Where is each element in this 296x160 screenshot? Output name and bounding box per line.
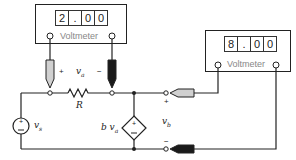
terminal-va-plus — [48, 91, 52, 95]
probe-vb-positive — [170, 89, 194, 97]
vb-label: vb — [162, 117, 171, 128]
voltmeter-b-label: Voltmeter — [227, 60, 265, 69]
va-subscript: a — [81, 71, 85, 78]
voltmeter-a: 2 . 0 0 Voltmeter — [35, 4, 127, 44]
lead-vb-minus — [194, 66, 276, 149]
svg-text:+: + — [19, 118, 23, 125]
vs-label: vs — [34, 121, 42, 132]
digit: 8 — [225, 37, 238, 51]
digit: 0 — [251, 37, 264, 51]
voltmeter-b: 8 . 0 0 Voltmeter — [205, 30, 291, 72]
vb-plus-sign: + — [164, 98, 169, 106]
digit: 0 — [82, 11, 95, 25]
digit: 0 — [95, 11, 107, 25]
bva-symbol: b v — [101, 122, 115, 132]
digit: 0 — [264, 37, 276, 51]
digit: . — [238, 37, 251, 51]
terminal-vb-plus — [164, 91, 168, 95]
independent-voltage-source: + — [13, 118, 29, 134]
junction-top — [132, 91, 136, 95]
junction-bottom — [132, 147, 136, 151]
voltmeter-a-display: 2 . 0 0 — [55, 10, 108, 26]
resistor — [68, 89, 90, 97]
vb-subscript: b — [167, 121, 171, 128]
resistor-label: R — [76, 101, 83, 110]
vs-subscript: s — [39, 125, 42, 132]
va-plus-sign: + — [59, 68, 64, 76]
svg-text:+: + — [132, 120, 136, 127]
digit: . — [69, 11, 82, 25]
terminal-va-minus — [110, 91, 114, 95]
probe-vb-negative — [170, 145, 194, 153]
bva-subscript: a — [115, 127, 119, 134]
dependent-source-label: b va — [101, 123, 118, 134]
terminal-vb-minus — [164, 147, 168, 151]
dependent-voltage-source: + — [122, 116, 146, 140]
va-label: va — [76, 67, 85, 78]
voltmeter-a-label: Voltmeter — [60, 32, 98, 41]
vb-minus-sign: − — [164, 138, 169, 146]
probe-va-positive — [46, 60, 54, 88]
probe-va-negative — [108, 60, 116, 88]
voltmeter-b-display: 8 . 0 0 — [224, 36, 277, 52]
digit: 2 — [56, 11, 69, 25]
va-minus-sign: − — [97, 68, 102, 76]
